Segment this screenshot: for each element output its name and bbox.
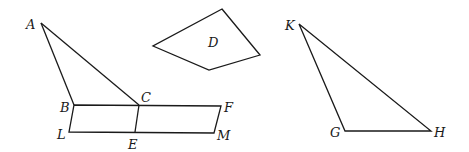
segment-ab (41, 23, 74, 105)
label-m: M (216, 128, 231, 143)
label-a: A (25, 17, 35, 32)
label-b: B (59, 100, 70, 115)
geometry-diagram: A B C F L E M D K G H (0, 0, 469, 152)
segment-ce (135, 105, 139, 132)
label-e: E (127, 137, 138, 152)
label-h: H (433, 125, 446, 140)
quadrilateral-d (153, 9, 260, 70)
triangle-abc (41, 23, 139, 105)
label-g: G (330, 125, 340, 140)
label-f: F (223, 100, 234, 115)
label-k: K (284, 18, 296, 33)
label-c: C (141, 90, 151, 105)
triangle-kgh-outline (299, 24, 431, 131)
label-l: L (56, 127, 66, 142)
quadrilateral-d-outline (153, 9, 260, 70)
parallelogram-outline (69, 105, 221, 133)
triangle-kgh (299, 24, 431, 131)
segment-ac (41, 23, 139, 105)
label-d: D (207, 35, 219, 50)
parallelogram-bfml (69, 105, 221, 133)
